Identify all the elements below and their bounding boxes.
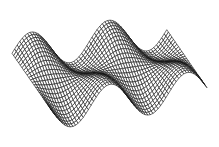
wireframe-surface-plot [0,0,219,147]
surface-mesh [0,0,219,147]
mesh-quads [12,20,207,127]
